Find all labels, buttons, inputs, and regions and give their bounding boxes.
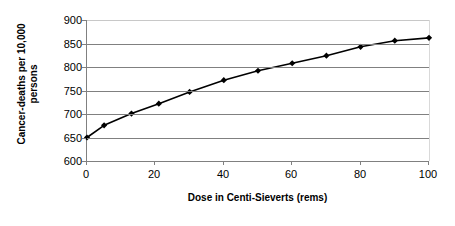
- x-tick-mark-100: [428, 161, 429, 165]
- y-tick-mark-750: [82, 91, 86, 92]
- plot-area: [86, 20, 430, 161]
- x-tick-label-100: 100: [408, 168, 448, 180]
- x-axis-line: [86, 161, 429, 162]
- x-tick-mark-40: [223, 161, 224, 165]
- x-tick-label-40: 40: [203, 168, 243, 180]
- y-tick-mark-850: [82, 44, 86, 45]
- x-tick-mark-20: [154, 161, 155, 165]
- x-tick-mark-0: [86, 161, 87, 165]
- data-point-marker: [323, 53, 329, 59]
- data-point-marker: [156, 101, 162, 107]
- x-tick-label-60: 60: [271, 168, 311, 180]
- gridline-y-800: [87, 67, 429, 68]
- data-point-marker: [221, 77, 227, 83]
- y-axis-tick-labels: 600650700750800850900: [52, 14, 82, 167]
- y-axis-title-line-2: persons: [28, 23, 40, 144]
- x-tick-label-0: 0: [66, 168, 106, 180]
- data-point-marker: [255, 68, 261, 74]
- x-tick-label-20: 20: [134, 168, 174, 180]
- y-tick-label-900: 900: [52, 14, 82, 26]
- y-tick-mark-700: [82, 114, 86, 115]
- y-tick-label-600: 600: [52, 155, 82, 167]
- x-tick-mark-80: [360, 161, 361, 165]
- cancer-deaths-dose-chart: Cancer-deaths per 10,000 persons 6006507…: [0, 0, 455, 226]
- x-axis-title: Dose in Centi-Sieverts (rems): [86, 192, 429, 203]
- gridline-y-700: [87, 114, 429, 115]
- y-axis-title: Cancer-deaths per 10,000 persons: [0, 0, 56, 168]
- y-tick-mark-800: [82, 67, 86, 68]
- y-tick-mark-650: [82, 138, 86, 139]
- y-tick-label-650: 650: [52, 132, 82, 144]
- gridline-y-650: [87, 138, 429, 139]
- gridline-y-850: [87, 44, 429, 45]
- y-tick-label-850: 850: [52, 38, 82, 50]
- gridline-y-750: [87, 91, 429, 92]
- y-tick-label-700: 700: [52, 108, 82, 120]
- data-point-marker: [392, 38, 398, 44]
- y-tick-label-800: 800: [52, 61, 82, 73]
- gridline-y-900: [87, 20, 429, 21]
- y-tick-mark-900: [82, 20, 86, 21]
- x-tick-mark-60: [291, 161, 292, 165]
- y-axis-title-line-1: Cancer-deaths per 10,000: [16, 23, 28, 144]
- series-line: [87, 38, 429, 138]
- data-point-marker: [426, 35, 432, 41]
- y-tick-label-750: 750: [52, 85, 82, 97]
- data-point-marker: [289, 60, 295, 66]
- x-tick-label-80: 80: [340, 168, 380, 180]
